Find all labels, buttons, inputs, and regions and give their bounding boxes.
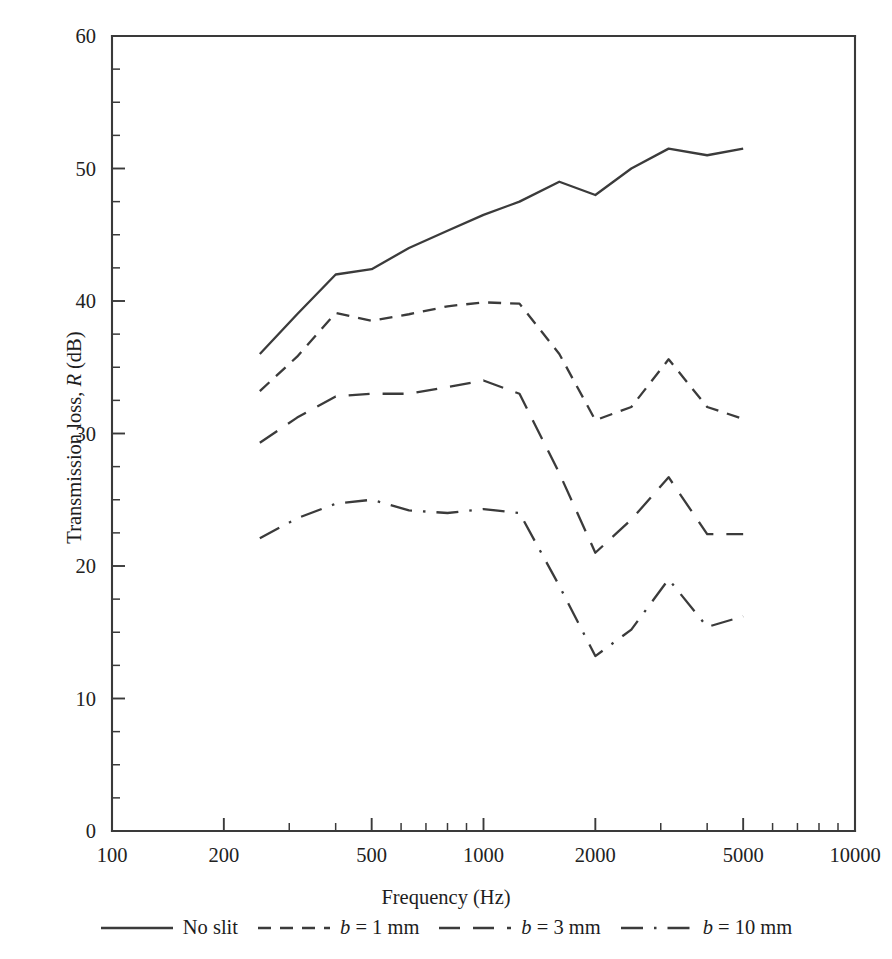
- legend-label-symbol-1: b: [340, 916, 350, 938]
- legend-item-2: b = 3 mm: [438, 916, 600, 939]
- legend-label-symbol-3: b: [703, 916, 713, 938]
- y-axis-title-post: (dB): [63, 331, 85, 374]
- legend-item-1: b = 1 mm: [257, 916, 419, 939]
- legend-item-0: No slit: [100, 916, 238, 939]
- legend-swatch-longdash-icon: [438, 921, 512, 935]
- legend-swatch-dashdot-icon: [620, 921, 694, 935]
- legend-swatch-dashed-icon: [257, 921, 331, 935]
- y-axis-title-symbol: R: [63, 374, 85, 387]
- x-tick-label: 200: [208, 844, 239, 866]
- series-line-3: [260, 500, 743, 656]
- legend-label-1: b = 1 mm: [340, 916, 419, 939]
- x-axis-title-text: Frequency (Hz): [381, 886, 510, 908]
- legend-label-value-3: = 10 mm: [713, 916, 792, 938]
- x-tick-label: 500: [356, 844, 387, 866]
- series-line-1: [260, 302, 743, 420]
- y-axis-title-pre: Transmission loss,: [63, 387, 85, 544]
- axis-tick-labels: 010203040506010020050010002000500010000: [76, 25, 881, 866]
- legend-label-value-2: = 3 mm: [532, 916, 601, 938]
- y-axis-title: Transmission loss, R (dB): [63, 78, 86, 798]
- legend-swatch-solid-icon: [100, 921, 174, 935]
- legend-item-3: b = 10 mm: [620, 916, 793, 939]
- legend-label-symbol-2: b: [521, 916, 531, 938]
- legend-label-3: b = 10 mm: [703, 916, 793, 939]
- y-tick-label: 60: [76, 25, 97, 47]
- legend-label-value-1: = 1 mm: [350, 916, 419, 938]
- axis-ticks: [112, 36, 855, 831]
- series-line-2: [260, 381, 743, 553]
- x-tick-label: 2000: [575, 844, 616, 866]
- chart-plot-area: 010203040506010020050010002000500010000: [0, 0, 892, 959]
- x-tick-label: 10000: [829, 844, 880, 866]
- x-axis-title: Frequency (Hz): [0, 886, 892, 909]
- figure-transmission-loss: 010203040506010020050010002000500010000 …: [0, 0, 892, 959]
- legend-label-0: No slit: [183, 916, 238, 939]
- series-line-0: [260, 149, 743, 354]
- y-tick-label: 0: [86, 820, 96, 842]
- axes-frame: [112, 36, 855, 831]
- data-series-group: [260, 149, 743, 656]
- x-tick-label: 1000: [463, 844, 504, 866]
- legend-label-text-0: No slit: [183, 916, 238, 938]
- legend-label-2: b = 3 mm: [521, 916, 600, 939]
- x-tick-label: 5000: [723, 844, 764, 866]
- x-tick-label: 100: [97, 844, 128, 866]
- chart-legend: No slitb = 1 mmb = 3 mmb = 10 mm: [0, 916, 892, 939]
